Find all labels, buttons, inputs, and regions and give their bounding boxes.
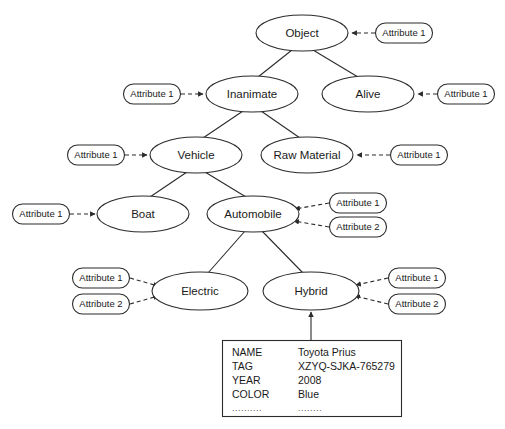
- entity-boat-label: Boat: [131, 208, 155, 220]
- entity-inanimate[interactable]: Inanimate: [206, 76, 298, 112]
- entity-boat[interactable]: Boat: [97, 196, 189, 232]
- attribute-inanimate-1[interactable]: Attribute 1: [124, 84, 181, 104]
- entity-automobile-label: Automobile: [224, 208, 282, 220]
- attributes: Attribute 1 Attribute 1 Attribute 1 Attr…: [13, 23, 495, 314]
- entity-automobile[interactable]: Automobile: [207, 196, 299, 232]
- entity-inanimate-label: Inanimate: [227, 88, 278, 100]
- instance-row-value: Blue: [298, 388, 319, 400]
- attribute-electric-1[interactable]: Attribute 1: [73, 268, 130, 288]
- isa-link-object-alive: [313, 50, 358, 77]
- attribute-electric-2-label: Attribute 2: [79, 298, 122, 309]
- entity-vehicle-label: Vehicle: [177, 149, 214, 161]
- isa-link-inanimate-vehicle: [203, 111, 243, 138]
- attribute-automobile-1-label: Attribute 1: [336, 197, 379, 208]
- attribute-hybrid-2[interactable]: Attribute 2: [389, 294, 446, 314]
- instance-row-key: YEAR: [232, 374, 261, 386]
- entity-object[interactable]: Object: [256, 15, 348, 51]
- attribute-inanimate-1-label: Attribute 1: [130, 88, 173, 99]
- attribute-hybrid-2-label: Attribute 2: [395, 298, 438, 309]
- attr-link-hybrid-2: [355, 296, 388, 304]
- instance-row-value: Toyota Prius: [298, 346, 356, 358]
- instance-table[interactable]: NAME Toyota Prius TAG XZYQ-SJKA-765279 Y…: [223, 341, 402, 417]
- isa-link-inanimate-rawmat: [261, 111, 300, 138]
- attribute-links: [70, 33, 437, 304]
- attribute-automobile-2[interactable]: Attribute 2: [330, 217, 387, 237]
- attribute-object-1[interactable]: Attribute 1: [376, 23, 433, 43]
- entities: Object Inanimate Alive Vehicle Raw Mater…: [97, 15, 414, 310]
- attr-link-automobile-2: [294, 221, 329, 227]
- attribute-alive-1-label: Attribute 1: [444, 88, 487, 99]
- entity-hybrid-label: Hybrid: [294, 285, 327, 297]
- attribute-raw-material-1-label: Attribute 1: [397, 149, 440, 160]
- entity-raw-material[interactable]: Raw Material: [261, 137, 353, 173]
- instance-row-value: XZYQ-SJKA-765279: [298, 360, 395, 372]
- attribute-automobile-2-label: Attribute 2: [336, 221, 379, 232]
- entity-object-label: Object: [285, 27, 319, 39]
- entity-vehicle[interactable]: Vehicle: [150, 137, 242, 173]
- attribute-alive-1[interactable]: Attribute 1: [438, 84, 495, 104]
- attribute-boat-1-label: Attribute 1: [19, 208, 62, 219]
- attr-link-automobile-1: [295, 203, 329, 209]
- instance-row-key: TAG: [232, 360, 253, 372]
- attribute-raw-material-1[interactable]: Attribute 1: [391, 145, 448, 165]
- instance-row-key: COLOR: [232, 388, 270, 400]
- entity-alive-label: Alive: [356, 88, 381, 100]
- instance-row-key: NAME: [232, 346, 262, 358]
- instance-row-value: 2008: [298, 374, 322, 386]
- instance-continuation-key: ..........: [232, 403, 262, 413]
- entity-raw-material-label: Raw Material: [273, 149, 340, 161]
- entity-alive[interactable]: Alive: [322, 76, 414, 112]
- isa-link-automobile-electric: [208, 231, 245, 273]
- entity-electric[interactable]: Electric: [152, 272, 248, 310]
- er-specialization-diagram: Object Inanimate Alive Vehicle Raw Mater…: [0, 0, 505, 429]
- attribute-automobile-1[interactable]: Attribute 1: [330, 193, 387, 213]
- attribute-vehicle-1-label: Attribute 1: [74, 149, 117, 160]
- attribute-vehicle-1[interactable]: Attribute 1: [68, 145, 125, 165]
- attr-link-hybrid-1: [356, 278, 388, 285]
- isa-link-automobile-hybrid: [262, 231, 303, 273]
- entity-hybrid[interactable]: Hybrid: [263, 272, 359, 310]
- attribute-object-1-label: Attribute 1: [382, 27, 425, 38]
- isa-link-vehicle-automobile: [205, 172, 246, 197]
- instance-continuation-value: ........: [298, 403, 322, 413]
- attribute-electric-2[interactable]: Attribute 2: [73, 294, 130, 314]
- isa-link-object-inanimate: [258, 50, 292, 77]
- isa-link-vehicle-boat: [150, 172, 187, 197]
- attribute-hybrid-1-label: Attribute 1: [395, 272, 438, 283]
- entity-electric-label: Electric: [181, 285, 219, 297]
- attribute-electric-1-label: Attribute 1: [79, 272, 122, 283]
- attribute-boat-1[interactable]: Attribute 1: [13, 204, 70, 224]
- attribute-hybrid-1[interactable]: Attribute 1: [389, 268, 446, 288]
